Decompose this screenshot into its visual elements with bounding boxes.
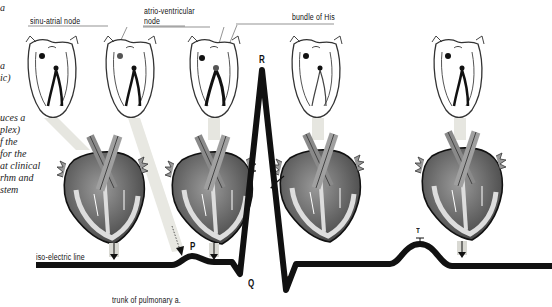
label-av-node-line1: atrio-ventricular [144, 6, 195, 16]
wave-label-q: Q [248, 278, 254, 289]
label-iso-line: iso-electric line [36, 252, 85, 262]
anatomical-heart-4 [415, 132, 506, 240]
wave-label-t: T [416, 226, 420, 235]
connector-band [44, 118, 90, 150]
label-bundle-his: bundle of His [292, 12, 335, 22]
wave-label-p: P [190, 241, 195, 252]
down-arrow-icon [209, 243, 219, 260]
anatomical-heart-3 [270, 134, 364, 242]
down-arrow-icon [457, 241, 467, 258]
sketch-heart-3 [188, 36, 240, 118]
label-pulmonary: trunk of pulmonary a. [112, 295, 181, 305]
label-av-node-line2: node [144, 16, 160, 26]
anatomical-heart-1 [57, 136, 148, 244]
wave-label-r: R [259, 54, 265, 65]
sketch-heart-5 [432, 36, 484, 118]
sketch-heart-1 [26, 36, 78, 118]
sketch-heart-2 [104, 36, 156, 118]
wave-label-s: S [286, 275, 291, 286]
sketch-heart-4 [290, 36, 342, 118]
down-arrow-icon [109, 243, 119, 260]
label-sa-node: sinu-atrial node [30, 16, 80, 26]
